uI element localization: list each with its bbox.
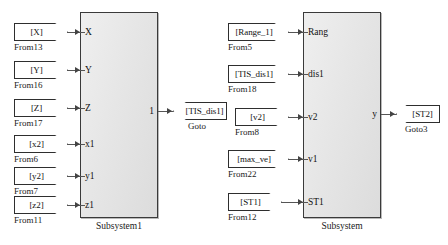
from-block-from7[interactable]: [y2] [14, 167, 68, 185]
wire-from12-to-st1 [281, 202, 308, 203]
from-block-from12[interactable]: [ST1] [228, 193, 282, 211]
arrowhead-z1 [75, 202, 80, 208]
from-block-from22-caption: From22 [228, 169, 257, 179]
arrowhead-dis1 [298, 71, 303, 77]
from-block-from6-caption: From6 [14, 154, 38, 164]
from-block-from6[interactable]: [x2] [14, 135, 68, 153]
port-label-out-1: 1 [140, 107, 154, 117]
from-block-from12-caption: From12 [228, 212, 257, 222]
from-block-from17-caption: From17 [14, 118, 43, 128]
arrowhead-st1 [298, 199, 303, 205]
arrowhead-y1 [75, 173, 80, 179]
arrowhead-v2 [298, 114, 303, 120]
from-block-from13-caption: From13 [14, 42, 43, 52]
arrowhead-rang [298, 29, 303, 35]
arrowhead-x1 [75, 141, 80, 147]
from-block-from5[interactable]: [Range_1] [228, 23, 289, 41]
port-label-rang: Rang [308, 28, 328, 38]
port-label-st1: ST1 [308, 198, 324, 208]
port-label-v2: v2 [308, 113, 318, 123]
goto-block-goto3-caption: Goto3 [405, 124, 428, 134]
port-label-v1: v1 [308, 155, 318, 165]
port-label-y: Y [85, 66, 92, 76]
from-block-from11-caption: From11 [14, 215, 42, 225]
from-block-from7-caption: From7 [14, 186, 38, 196]
goto-block-goto[interactable]: [TIS_dis1] [173, 102, 227, 120]
from-block-from18[interactable]: [TIS_dis1] [228, 65, 289, 83]
port-label-x: X [85, 28, 92, 38]
from-block-from22[interactable]: [max_ve] [228, 150, 289, 168]
port-label-dis1: dis1 [308, 70, 324, 80]
port-label-out-y: y [363, 110, 377, 120]
from-block-from11[interactable]: [z2] [14, 196, 68, 214]
port-label-x1: x1 [85, 140, 95, 150]
block-diagram-canvas: Subsystem1 X Y Z x1 y1 z1 1 [X] From13 [… [0, 0, 448, 245]
arrowhead-v1 [298, 156, 303, 162]
from-block-from5-caption: From5 [228, 42, 252, 52]
arrowhead-x [75, 29, 80, 35]
port-label-y1: y1 [85, 172, 95, 182]
goto-block-goto-caption: Goto [188, 121, 206, 131]
from-block-from8-caption: From8 [235, 127, 259, 137]
from-block-from16[interactable]: [Y] [14, 61, 68, 79]
port-label-z: Z [85, 104, 91, 114]
arrowhead-y [75, 67, 80, 73]
subsystem1-caption: Subsystem1 [80, 221, 158, 231]
from-block-from13[interactable]: [X] [14, 23, 68, 41]
arrowhead-z [75, 105, 80, 111]
from-block-from18-caption: From18 [228, 84, 257, 94]
from-block-from16-caption: From16 [14, 80, 43, 90]
from-block-from17[interactable]: [Z] [14, 99, 68, 117]
from-block-from8[interactable]: [v2] [235, 108, 289, 126]
arrowhead-goto3 [390, 111, 395, 117]
subsystem-caption: Subsystem [303, 221, 381, 231]
port-label-z1: z1 [85, 201, 94, 211]
arrowhead-goto [167, 108, 172, 114]
goto-block-goto3[interactable]: [ST2] [396, 105, 440, 123]
